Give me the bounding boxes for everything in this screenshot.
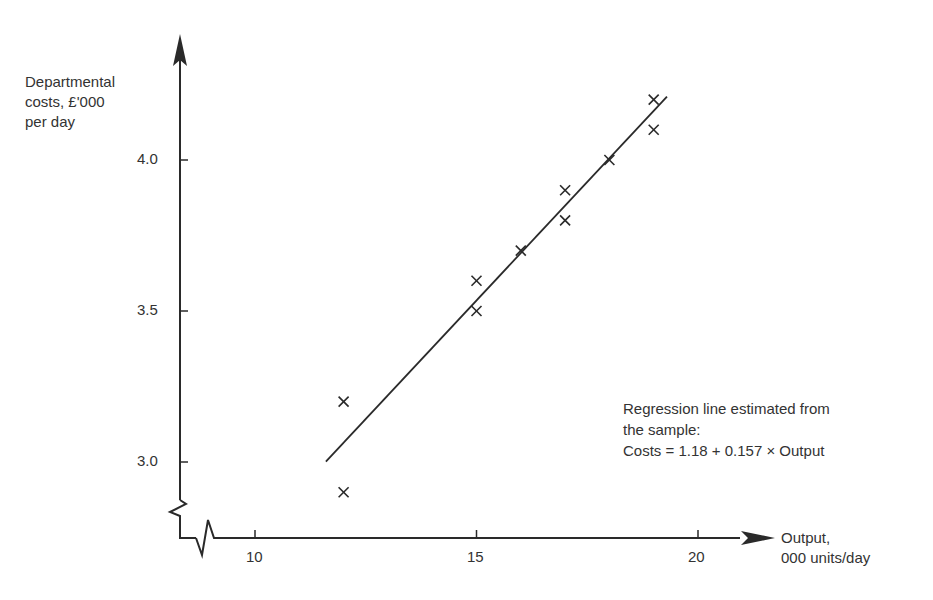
data-point-x-marker-icon bbox=[472, 306, 482, 316]
annotation-equation: Costs = 1.18 + 0.157 × Output bbox=[623, 440, 830, 461]
x-axis-arrow-icon bbox=[741, 531, 775, 545]
regression-line bbox=[326, 97, 667, 462]
y-tick-label-4-0: 4.0 bbox=[137, 150, 158, 167]
data-point-x-marker-icon bbox=[560, 215, 570, 225]
data-point-x-marker-icon bbox=[560, 185, 570, 195]
regression-annotation: Regression line estimated from the sampl… bbox=[623, 398, 830, 461]
scatter-plot bbox=[0, 0, 933, 600]
y-axis-label-line-1: Departmental bbox=[25, 72, 115, 92]
axis-ticks bbox=[180, 160, 698, 538]
x-tick-label-10: 10 bbox=[246, 548, 263, 565]
y-axis-label-line-2: costs, £'000 bbox=[25, 92, 115, 112]
data-point-x-marker-icon bbox=[339, 397, 349, 407]
data-point-x-marker-icon bbox=[339, 487, 349, 497]
x-axis-label-line-2: 000 units/day bbox=[781, 548, 870, 568]
x-tick-label-20: 20 bbox=[688, 548, 705, 565]
data-point-x-marker-icon bbox=[472, 276, 482, 286]
x-axis-label: Output, 000 units/day bbox=[781, 528, 870, 568]
annotation-line-1: Regression line estimated from bbox=[623, 398, 830, 419]
data-point-x-marker-icon bbox=[649, 95, 659, 105]
x-axis-label-line-1: Output, bbox=[781, 528, 870, 548]
y-axis-label-line-3: per day bbox=[25, 112, 115, 132]
y-axis-label: Departmental costs, £'000 per day bbox=[25, 72, 115, 132]
y-tick-label-3-0: 3.0 bbox=[137, 452, 158, 469]
y-tick-label-3-5: 3.5 bbox=[137, 301, 158, 318]
annotation-line-2: the sample: bbox=[623, 419, 830, 440]
data-point-x-marker-icon bbox=[604, 155, 614, 165]
data-points bbox=[339, 95, 659, 498]
x-tick-label-15: 15 bbox=[467, 548, 484, 565]
data-point-x-marker-icon bbox=[649, 125, 659, 135]
y-axis bbox=[170, 58, 196, 538]
